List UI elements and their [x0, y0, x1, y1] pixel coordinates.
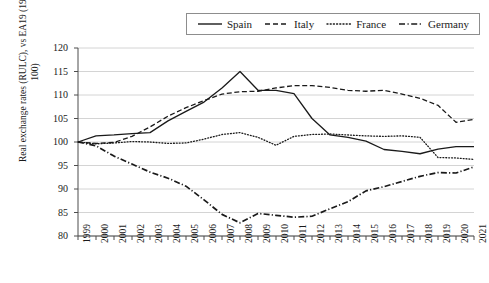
x-tick-label: 2005	[190, 224, 200, 243]
y-tick-label: 90	[44, 184, 68, 194]
series-line-germany	[78, 142, 474, 223]
x-tick-label: 2011	[298, 224, 308, 243]
chart-figure: Real exchange rates (RULC), vs EA19 (199…	[0, 0, 489, 283]
x-tick-label: 2021	[478, 224, 488, 243]
series-line-spain	[78, 72, 474, 154]
x-tick-label: 2017	[406, 224, 416, 243]
x-tick-label: 1999	[82, 224, 92, 243]
x-tick-label: 2015	[370, 224, 380, 243]
x-tick-label: 2009	[262, 224, 272, 243]
x-tick-label: 2010	[280, 224, 290, 243]
y-tick-label: 85	[44, 208, 68, 218]
x-tick-label: 2018	[424, 224, 434, 243]
x-tick-label: 2000	[100, 224, 110, 243]
x-tick-label: 2008	[244, 224, 254, 243]
x-tick-label: 2013	[334, 224, 344, 243]
x-tick-label: 2019	[442, 224, 452, 243]
x-tick-label: 2003	[154, 224, 164, 243]
x-tick-label: 2014	[352, 224, 362, 243]
x-tick-label: 2001	[118, 224, 128, 243]
y-tick-label: 105	[44, 114, 68, 124]
x-tick-label: 2007	[226, 224, 236, 243]
y-tick-label: 100	[44, 137, 68, 147]
y-tick-label: 80	[44, 231, 68, 241]
x-tick-label: 2002	[136, 224, 146, 243]
x-tick-label: 2020	[460, 224, 470, 243]
y-tick-label: 120	[44, 43, 68, 53]
y-tick-label: 95	[44, 161, 68, 171]
y-tick-label: 110	[44, 90, 68, 100]
x-tick-label: 2004	[172, 224, 182, 243]
series-line-italy	[78, 86, 474, 144]
series-line-france	[78, 133, 474, 160]
x-tick-label: 2006	[208, 224, 218, 243]
x-tick-label: 2012	[316, 224, 326, 243]
x-tick-label: 2016	[388, 224, 398, 243]
y-tick-label: 115	[44, 67, 68, 77]
